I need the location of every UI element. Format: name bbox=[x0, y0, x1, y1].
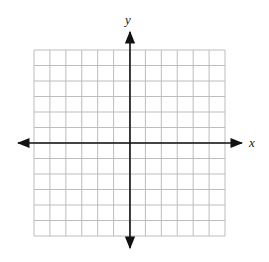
y-axis-label: y bbox=[123, 12, 131, 27]
coordinate-plane: x y bbox=[0, 0, 269, 262]
x-axis-label: x bbox=[248, 135, 255, 150]
